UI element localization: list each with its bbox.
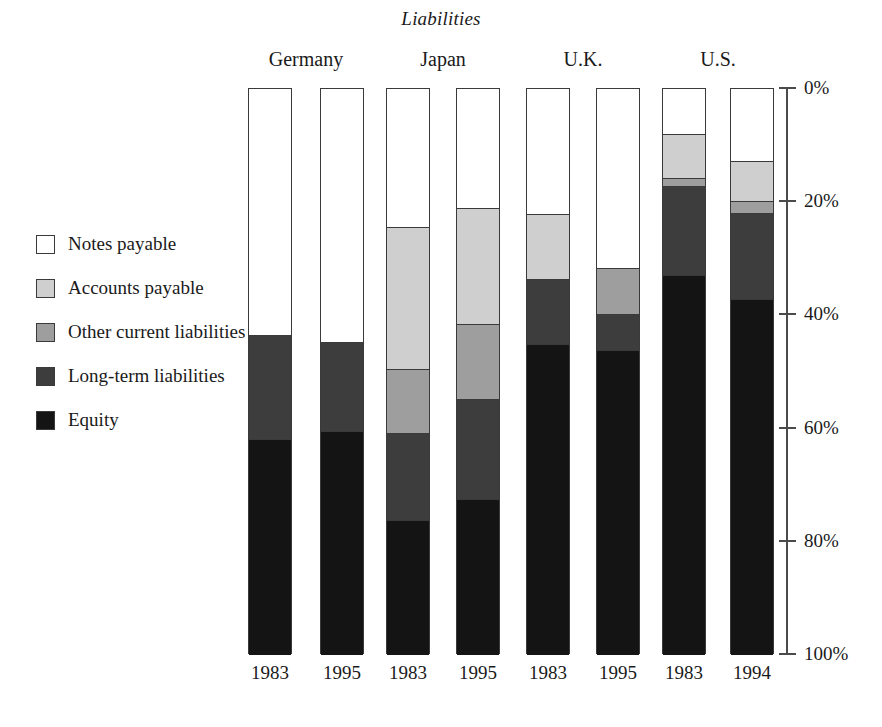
legend-swatch-icon [36, 323, 55, 342]
bar-segment-notes-payable [387, 89, 429, 227]
legend-item-label: Equity [68, 409, 119, 431]
y-axis-tick-label: 100% [804, 643, 848, 665]
bar-segment-long-term-liabilities [457, 399, 499, 499]
bar-segment-equity [321, 431, 363, 655]
bar-japan-1983 [386, 88, 430, 654]
bar-segment-accounts-payable [731, 161, 773, 201]
bar-segment-other-current-liabilities [663, 178, 705, 186]
y-axis-tick-label: 20% [804, 190, 839, 212]
bar-segment-other-current-liabilities [597, 268, 639, 313]
bar-segment-long-term-liabilities [249, 335, 291, 439]
x-axis-year-label: 1983 [654, 662, 714, 684]
bar-us-1994 [730, 88, 774, 654]
x-axis-year-label: 1995 [588, 662, 648, 684]
country-label-us: U.S. [628, 48, 808, 71]
bar-segment-notes-payable [527, 89, 569, 214]
bar-segment-equity [457, 499, 499, 655]
bar-segment-equity [527, 344, 569, 655]
bar-segment-long-term-liabilities [387, 433, 429, 520]
y-axis-tick-label: 60% [804, 417, 839, 439]
y-axis-tick-label: 40% [804, 303, 839, 325]
legend-swatch-icon [36, 235, 55, 254]
bar-segment-long-term-liabilities [527, 279, 569, 344]
y-axis-tick-label: 80% [804, 530, 839, 552]
x-axis-year-label: 1983 [240, 662, 300, 684]
x-axis-year-label: 1983 [518, 662, 578, 684]
legend-item-label: Accounts payable [68, 277, 204, 299]
bar-segment-accounts-payable [527, 214, 569, 279]
legend-item-label: Long-term liabilities [68, 365, 225, 387]
liabilities-stacked-bar-chart: Liabilities Notes payableAccounts payabl… [0, 0, 882, 727]
legend-item-other-current-liabilities: Other current liabilities [36, 310, 245, 354]
x-axis-year-label: 1994 [722, 662, 782, 684]
bar-segment-notes-payable [249, 89, 291, 335]
legend-swatch-icon [36, 279, 55, 298]
bar-segment-notes-payable [731, 89, 773, 161]
bar-germany-1995 [320, 88, 364, 654]
legend-item-accounts-payable: Accounts payable [36, 266, 245, 310]
legend-item-label: Other current liabilities [68, 321, 245, 343]
legend-item-long-term-liabilities: Long-term liabilities [36, 354, 245, 398]
bar-segment-long-term-liabilities [321, 342, 363, 431]
bar-segment-accounts-payable [387, 227, 429, 369]
bar-segment-notes-payable [597, 89, 639, 268]
bar-segment-notes-payable [321, 89, 363, 342]
bar-segment-equity [663, 275, 705, 655]
bar-segment-accounts-payable [663, 134, 705, 178]
bar-segment-other-current-liabilities [731, 201, 773, 213]
chart-legend: Notes payableAccounts payableOther curre… [36, 222, 245, 442]
bar-segment-long-term-liabilities [663, 186, 705, 274]
y-axis-line [786, 88, 788, 654]
bar-uk-1995 [596, 88, 640, 654]
y-axis-tick [779, 653, 796, 655]
bar-segment-equity [249, 439, 291, 655]
bar-segment-equity [597, 350, 639, 655]
bar-segment-other-current-liabilities [387, 369, 429, 433]
y-axis-tick [779, 87, 796, 89]
bar-us-1983 [662, 88, 706, 654]
legend-item-equity: Equity [36, 398, 245, 442]
bar-segment-equity [387, 520, 429, 655]
y-axis-tick [779, 200, 796, 202]
y-axis-tick [779, 540, 796, 542]
bar-segment-accounts-payable [457, 208, 499, 324]
bar-segment-notes-payable [457, 89, 499, 208]
bar-uk-1983 [526, 88, 570, 654]
x-axis-year-label: 1983 [378, 662, 438, 684]
legend-item-label: Notes payable [68, 233, 176, 255]
y-axis-tick-label: 0% [804, 77, 829, 99]
x-axis-year-label: 1995 [448, 662, 508, 684]
legend-swatch-icon [36, 411, 55, 430]
bar-segment-long-term-liabilities [731, 213, 773, 299]
y-axis-tick [779, 313, 796, 315]
y-axis-tick [779, 427, 796, 429]
bar-japan-1995 [456, 88, 500, 654]
bar-segment-notes-payable [663, 89, 705, 134]
legend-swatch-icon [36, 367, 55, 386]
bar-segment-other-current-liabilities [457, 324, 499, 399]
bar-germany-1983 [248, 88, 292, 654]
legend-item-notes-payable: Notes payable [36, 222, 245, 266]
bar-segment-equity [731, 299, 773, 655]
x-axis-year-label: 1995 [312, 662, 372, 684]
bar-segment-long-term-liabilities [597, 314, 639, 350]
